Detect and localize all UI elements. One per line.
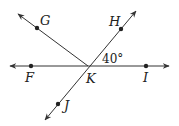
angle-label: 40°	[102, 52, 123, 66]
point-j	[56, 102, 60, 106]
point-f	[29, 64, 33, 68]
label-g: G	[40, 13, 50, 28]
label-j: J	[61, 98, 70, 113]
ray-kg	[18, 14, 88, 66]
label-h: H	[108, 14, 121, 29]
point-g	[35, 26, 39, 30]
label-k: K	[85, 71, 97, 86]
label-i: I	[142, 70, 149, 85]
geometry-diagram: F I G H J K 40°	[0, 0, 179, 126]
point-i	[144, 64, 148, 68]
label-f: F	[24, 70, 35, 85]
